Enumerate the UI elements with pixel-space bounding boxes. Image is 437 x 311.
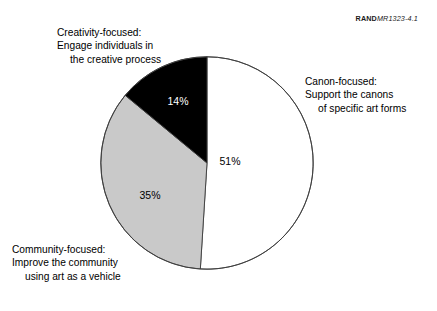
report-id-mark: RAND: [356, 14, 377, 23]
callout-line: Improve the community: [12, 256, 121, 269]
pie-slice-group: [101, 57, 313, 269]
callout-line: Support the canons: [305, 88, 406, 101]
pie-slice-canon-focused: [200, 57, 313, 269]
report-id: RANDMR1323-4.1: [356, 14, 418, 23]
callout-line: using art as a vehicle: [12, 270, 121, 283]
callout-creativity-focused: Creativity-focused: Engage individuals i…: [57, 26, 161, 66]
pie-chart: 51% 35% 14%: [100, 56, 314, 270]
pie-svg: [100, 56, 314, 270]
slice-value-community: 35%: [139, 189, 160, 201]
callout-line: of specific art forms: [305, 102, 406, 115]
callout-line: the creative process: [57, 53, 161, 66]
callout-line: Engage individuals in: [57, 39, 161, 52]
slice-value-creativity: 14%: [167, 95, 188, 107]
callout-community-focused: Community-focused: Improve the community…: [12, 243, 121, 283]
slice-value-canon: 51%: [219, 155, 240, 167]
report-id-number: MR1323-4.1: [377, 14, 418, 23]
callout-canon-focused: Canon-focused: Support the canons of spe…: [305, 75, 406, 115]
callout-line: Creativity-focused:: [57, 26, 161, 39]
callout-line: Community-focused:: [12, 243, 121, 256]
pie-chart-figure: RANDMR1323-4.1 51% 35% 14% Creativity-fo…: [0, 0, 437, 311]
callout-line: Canon-focused:: [305, 75, 406, 88]
